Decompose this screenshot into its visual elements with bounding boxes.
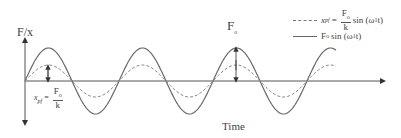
annotation-equals: = — [44, 93, 49, 102]
legend-item-solid: Fo sin (ω1t) — [293, 31, 361, 41]
legend-equals: = — [332, 15, 337, 25]
x-axis-label: Time — [222, 120, 245, 132]
fraction-den: k — [56, 101, 61, 110]
legend-t-2: t) — [356, 31, 362, 41]
legend-sin-2: sin (ω — [331, 31, 353, 41]
legend-force-sub: o — [326, 33, 329, 39]
legend-solid-swatch — [293, 36, 317, 37]
peak-force-label: Fo — [227, 18, 237, 35]
fraction-num-sub: o — [59, 92, 62, 98]
legend-sin: sin (ω — [353, 15, 375, 25]
y-axis-label: F/x — [17, 25, 33, 40]
legend-t: t) — [377, 15, 383, 25]
legend-x-sub: pf — [325, 17, 330, 23]
peak-force-subscript: o — [234, 29, 237, 35]
static-displacement-annotation: xpf = Fok — [34, 87, 65, 110]
annotation-fraction: Fok — [53, 87, 63, 110]
legend-fraction: Fok — [341, 9, 351, 32]
legend-dashed-swatch — [293, 20, 317, 21]
annotation-sub: pf — [38, 98, 43, 104]
legend-item-dashed: xpf = Fok sin (ω1t) — [293, 9, 383, 32]
legend-fraction-num-sub: o — [347, 14, 350, 20]
